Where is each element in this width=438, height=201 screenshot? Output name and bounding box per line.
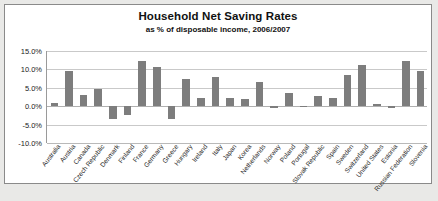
y-axis-tick: 15.0% bbox=[21, 47, 42, 56]
bar bbox=[329, 98, 337, 106]
bar bbox=[300, 106, 308, 107]
bar-slot bbox=[120, 51, 135, 143]
bar bbox=[344, 75, 352, 106]
bar bbox=[182, 79, 190, 107]
bar-slot bbox=[106, 51, 121, 143]
bar bbox=[270, 106, 278, 108]
x-axis-tick: Japan bbox=[221, 143, 238, 161]
bar-slot bbox=[340, 51, 355, 143]
bar-slot bbox=[369, 51, 384, 143]
bar bbox=[168, 106, 176, 119]
bar bbox=[256, 82, 264, 106]
bar-slot bbox=[252, 51, 267, 143]
bar-slot bbox=[135, 51, 150, 143]
bar bbox=[212, 77, 220, 106]
bar-slot bbox=[76, 51, 91, 143]
bar-slot bbox=[325, 51, 340, 143]
bar-slot bbox=[47, 51, 62, 143]
y-axis-tick: -10.0% bbox=[18, 139, 42, 148]
bar-slot bbox=[208, 51, 223, 143]
bar-slot bbox=[296, 51, 311, 143]
bar-slot bbox=[267, 51, 282, 143]
bar-slot bbox=[62, 51, 77, 143]
y-axis-labels: 15.0%10.0%5.0%0.0%-5.0%-10.0% bbox=[5, 5, 46, 185]
x-axis-labels: AustraliaAustriaCanadaCzech RepublicDenm… bbox=[46, 143, 427, 187]
bar bbox=[138, 61, 146, 106]
bar bbox=[51, 103, 59, 106]
y-axis-tick: 10.0% bbox=[21, 65, 42, 74]
bar-slot bbox=[179, 51, 194, 143]
bar-slot bbox=[91, 51, 106, 143]
bar bbox=[402, 61, 410, 106]
bar bbox=[80, 95, 88, 106]
bar-slot bbox=[194, 51, 209, 143]
bar-slot bbox=[384, 51, 399, 143]
bar-slot bbox=[150, 51, 165, 143]
bar-slot bbox=[355, 51, 370, 143]
y-axis-tick: 0.0% bbox=[25, 102, 42, 111]
bar bbox=[241, 99, 249, 106]
bar bbox=[153, 67, 161, 106]
bar bbox=[124, 106, 132, 115]
bar-slot bbox=[281, 51, 296, 143]
bar-slot bbox=[223, 51, 238, 143]
bar bbox=[373, 104, 381, 106]
bar bbox=[109, 106, 117, 119]
bar-slot bbox=[238, 51, 253, 143]
y-axis-tick: -5.0% bbox=[22, 120, 42, 129]
chart-subtitle: as % of disposable income, 2006/2007 bbox=[5, 24, 431, 35]
bar-slot bbox=[399, 51, 414, 143]
bar bbox=[417, 71, 425, 106]
bar bbox=[358, 65, 366, 107]
y-axis-tick: 5.0% bbox=[25, 83, 42, 92]
chart-figure: Household Net Saving Rates as % of dispo… bbox=[4, 4, 432, 184]
bar-slot bbox=[413, 51, 428, 143]
bar-series bbox=[47, 51, 427, 143]
bar bbox=[197, 98, 205, 106]
bar bbox=[94, 89, 102, 106]
bar-slot bbox=[311, 51, 326, 143]
bar-slot bbox=[164, 51, 179, 143]
bar bbox=[388, 106, 396, 108]
plot-area bbox=[46, 51, 427, 143]
bar bbox=[226, 98, 234, 106]
bar bbox=[65, 71, 73, 107]
chart-title-block: Household Net Saving Rates as % of dispo… bbox=[5, 10, 431, 35]
bar bbox=[285, 93, 293, 107]
bar bbox=[314, 96, 322, 106]
page-title: Household Net Saving Rates bbox=[5, 10, 431, 23]
